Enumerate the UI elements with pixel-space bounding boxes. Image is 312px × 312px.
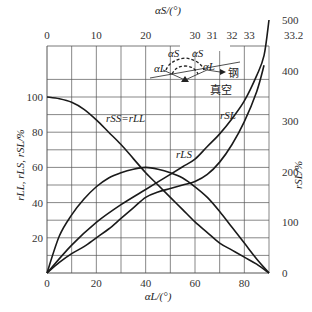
y-left-tick-label: 20 — [32, 232, 44, 244]
x-axis-label: αL/(°) — [145, 290, 172, 303]
curve-label-rss-rll: rSS=rLL — [106, 112, 145, 124]
inset-steel-label: 钢 — [228, 67, 239, 80]
inset-alpha-l-left: αL — [154, 62, 166, 74]
y-axis-right-label: rSL/% — [292, 161, 304, 189]
y-left-tick-label: 40 — [32, 197, 44, 209]
inset-alpha-s-right: αS — [192, 47, 204, 59]
x-top-tick-label: 10 — [91, 29, 103, 41]
x-top-axis-label: αS/(°) — [155, 4, 181, 17]
x-top-tick-label: 31 — [207, 29, 218, 41]
x-top-tick-label: 32 — [227, 29, 238, 41]
curve-label-rls: rLS — [176, 148, 192, 160]
x-tick-label: 80 — [239, 277, 251, 289]
y-right-tick-label: 0 — [282, 267, 288, 279]
curve-label-rsl: rSL — [220, 109, 236, 121]
curves — [47, 20, 269, 273]
y-left-tick-label: 60 — [32, 161, 44, 173]
y-right-tick-label: 500 — [282, 14, 299, 26]
x-top-tick-label: 0 — [44, 29, 50, 41]
grid — [47, 46, 269, 273]
y-right-tick-label: 400 — [282, 65, 299, 77]
y-axis-left-label: rLL, rLS, rSL/% — [14, 129, 26, 201]
inset-vacuum-label: 真空 — [210, 83, 232, 97]
x-tick-label: 40 — [140, 277, 152, 289]
x-top-tick-label: 33 — [244, 29, 256, 41]
x-tick-label: 60 — [190, 277, 202, 289]
curve-rsl — [47, 20, 269, 273]
y-left-tick-label: 80 — [32, 126, 44, 138]
y-left-tick-label: 100 — [27, 91, 44, 103]
inset-alpha-l-right: αL — [203, 60, 215, 72]
inset-alpha-s-left: αS — [168, 47, 180, 59]
x-top-tick-label: 20 — [140, 29, 152, 41]
x-top-tick-label: 30 — [190, 29, 202, 41]
y-right-tick-label: 100 — [282, 216, 299, 228]
y-right-tick-label: 300 — [282, 115, 299, 127]
x-tick-label: 0 — [44, 277, 50, 289]
chart: 020406080010203031323333.220406080100010… — [0, 0, 312, 312]
x-tick-label: 20 — [91, 277, 103, 289]
ticks: 020406080010203031323333.220406080100010… — [27, 14, 304, 289]
x-top-tick-label: 33.2 — [284, 29, 303, 41]
